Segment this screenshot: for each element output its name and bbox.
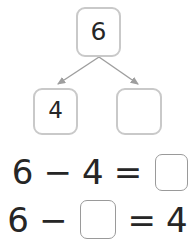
number-bond-part-box-right[interactable] — [116, 88, 162, 135]
equation-2-subtrahend-blank[interactable] — [80, 200, 116, 239]
worksheet-canvas: 6 4 6 − 4 = 6 − = 4 — [0, 0, 195, 248]
number-bond-part-value-left: 4 — [48, 99, 63, 122]
equation-2-answer: 4 — [166, 203, 188, 237]
equation-2-equals-sign: = — [128, 203, 157, 237]
arrow-to-left-part — [58, 57, 99, 84]
arrow-to-right-part — [99, 57, 138, 84]
equation-row-2: 6 − = 4 — [0, 196, 195, 243]
number-bond-whole-value: 6 — [91, 19, 107, 44]
equation-1-subtrahend: 4 — [82, 155, 104, 189]
number-bond-whole-box[interactable]: 6 — [76, 7, 121, 57]
equation-2-minus-sign: − — [39, 203, 68, 237]
equation-1-answer-blank[interactable] — [155, 154, 188, 191]
equation-row-1: 6 − 4 = — [0, 150, 195, 194]
equation-1-equals-sign: = — [114, 155, 143, 189]
equation-2-minuend: 6 — [7, 203, 29, 237]
equation-1-minuend: 6 — [12, 155, 34, 189]
number-bond-part-box-left[interactable]: 4 — [33, 88, 78, 135]
equation-1-minus-sign: − — [44, 155, 73, 189]
